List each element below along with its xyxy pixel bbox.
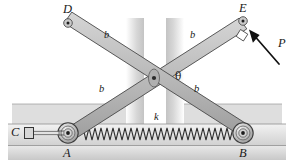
label-bar-lower-left-b: b [99,84,104,95]
label-spring-k: k [154,112,159,123]
label-bar-upper-left-b: b [104,30,109,41]
label-vertex-A: A [63,147,71,160]
force-arrow-P-icon [249,30,279,64]
figure-drawing-canvas [0,0,294,165]
roller-support-A [58,123,78,143]
label-vertex-B: B [239,147,247,160]
label-bar-lower-right-b: b [194,84,199,95]
roller-support-B [233,123,253,143]
label-vertex-C: C [11,126,19,139]
label-force-P: P [278,37,286,50]
label-vertex-D: D [63,3,72,16]
slider-block-C [25,128,34,139]
mechanics-figure: D E A B C P θ k b b b b [0,0,294,165]
label-bar-upper-right-b: b [190,30,195,41]
pin-joint-D [64,19,73,28]
connecting-rod-C-to-A [33,131,59,134]
center-pivot-joint [149,69,160,87]
label-angle-theta: θ [175,71,181,82]
label-vertex-E: E [239,2,247,15]
pin-joint-E [239,17,248,26]
